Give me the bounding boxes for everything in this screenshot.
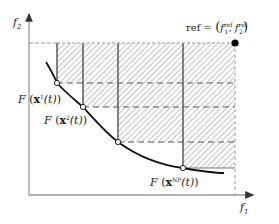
- point-x2: [80, 104, 85, 109]
- point-xNP: [180, 165, 185, 170]
- x-axis-label: f1: [239, 201, 249, 216]
- hypervolume-diagram: f2 f1 ref = (fref1, fref2) F (x1(t)) F (…: [0, 0, 279, 224]
- reference-label: ref = (fref1, fref2): [186, 19, 248, 35]
- label-point-x2: F (x2(t)): [43, 114, 87, 127]
- y-axis-label: f2: [12, 16, 22, 31]
- point-x1: [54, 80, 59, 85]
- point-x3: [115, 139, 120, 144]
- label-point-xNP: F (xNP(t)): [149, 176, 199, 189]
- reference-point: [231, 39, 238, 46]
- label-point-x1: F (x1(t)): [17, 93, 61, 106]
